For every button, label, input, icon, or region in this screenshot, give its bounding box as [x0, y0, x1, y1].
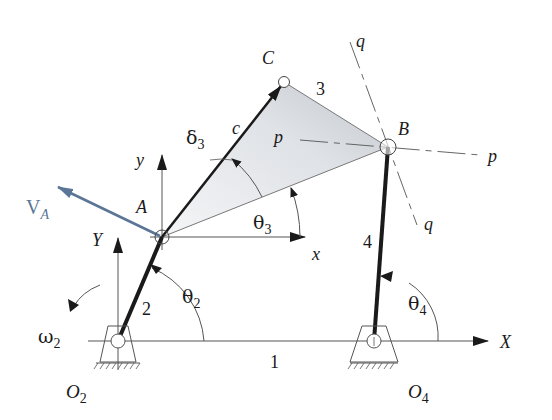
- label-global-X: X: [499, 332, 512, 352]
- label-delta3: δ3: [186, 126, 204, 152]
- label-a-point: A: [135, 197, 148, 217]
- label-global-Y: Y: [92, 230, 104, 250]
- label-q-bottom: q: [424, 214, 433, 234]
- label-link-2: 2: [142, 299, 151, 319]
- label-o4: O4: [408, 381, 429, 406]
- label-q-top: q: [356, 31, 365, 51]
- label-local-y: y: [134, 150, 144, 170]
- label-link-4: 4: [363, 232, 372, 252]
- omega2-arc: [74, 285, 100, 306]
- fourbar-diagram: C 3 B c A y x Y X p p q q 4 2 1 VA δ3 θ3…: [0, 0, 552, 420]
- label-p-left: p: [272, 127, 283, 147]
- theta4-arrowhead: [380, 271, 393, 282]
- label-b-point: B: [398, 119, 409, 139]
- coupler-triangle: [162, 82, 388, 237]
- link-2-crank: [118, 237, 162, 341]
- label-p-right: p: [486, 146, 497, 166]
- ground-pivot-o2: [94, 326, 140, 369]
- link-4-rocker: [374, 147, 388, 341]
- label-velocity-va: VA: [26, 196, 49, 222]
- theta3-arc: [291, 188, 300, 237]
- label-local-x: x: [311, 244, 320, 264]
- label-o2: O2: [66, 381, 87, 406]
- label-c-point: C: [262, 48, 275, 68]
- label-omega2: ω2: [38, 325, 61, 351]
- label-link-3: 3: [316, 79, 325, 99]
- joint-b: [380, 139, 396, 155]
- label-link-1: 1: [270, 352, 279, 372]
- label-theta2: θ2: [182, 285, 200, 311]
- delta3-leader: [210, 159, 232, 160]
- label-theta3: θ3: [253, 211, 271, 237]
- label-c-vector: c: [232, 118, 240, 138]
- coupler-point-c: [279, 77, 290, 88]
